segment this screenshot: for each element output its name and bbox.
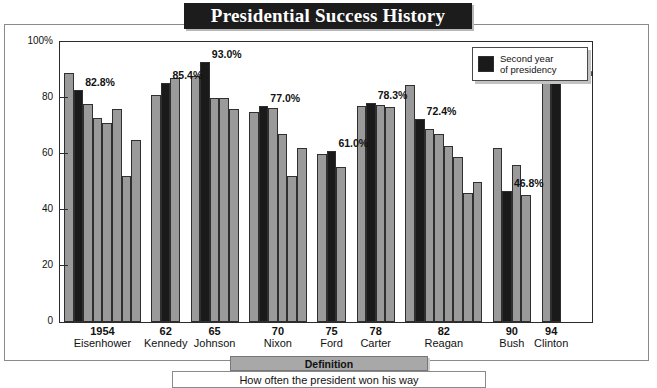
x-axis-labels: 1954Eisenhower62Kennedy65Johnson70Nixon7… — [0, 325, 657, 359]
bar — [268, 108, 278, 322]
bar — [278, 134, 288, 322]
bar-second-year — [259, 106, 269, 322]
y-axis-tick — [59, 209, 68, 210]
bar — [229, 109, 239, 322]
bar-value-label: 82.8% — [85, 76, 115, 88]
bar — [102, 123, 112, 322]
legend-label-line2: of presidency — [500, 64, 557, 75]
bar-second-year — [74, 90, 84, 322]
bar — [287, 176, 297, 322]
bar — [473, 182, 483, 322]
bar — [219, 98, 229, 322]
bar — [297, 148, 307, 322]
bar — [336, 167, 346, 322]
x-axis-president: Clinton — [520, 337, 583, 350]
y-axis-tick — [59, 153, 68, 154]
bar — [463, 193, 473, 322]
bars-layer: 82.8%85.4%93.0%77.0%61.0%78.3%72.4%46.8%… — [60, 42, 592, 322]
bar-value-label: 61.0% — [338, 137, 368, 149]
y-axis-tick — [59, 97, 68, 98]
bar — [249, 112, 259, 322]
bar-group — [542, 42, 561, 322]
legend-label: Second year of presidency — [500, 53, 557, 75]
bar-group — [317, 42, 346, 322]
bar-group — [405, 42, 482, 322]
bar-value-label: 78.3% — [378, 89, 408, 101]
bar-value-label: 93.0% — [212, 48, 242, 60]
bar — [425, 129, 435, 322]
bar — [112, 109, 122, 322]
bar — [521, 195, 531, 322]
chart-title-banner: Presidential Success History — [184, 3, 472, 29]
bar — [210, 98, 220, 322]
bar — [151, 95, 161, 322]
bar-second-year — [502, 191, 512, 322]
bar — [405, 85, 415, 322]
bar — [131, 140, 141, 322]
y-axis-tick-label: 60 — [42, 148, 53, 158]
bar-second-year — [161, 83, 171, 322]
bar-second-year — [366, 103, 376, 322]
bar-second-year — [551, 80, 561, 322]
definition-callout: Definition How often the president won h… — [230, 356, 428, 387]
bar — [434, 134, 444, 322]
bar — [453, 157, 463, 322]
page-title: Presidential Success History — [211, 5, 445, 27]
legend-label-line1: Second year — [500, 53, 553, 64]
dark-square-swatch — [478, 56, 494, 72]
bar-value-label: 72.4% — [427, 105, 457, 117]
bar-group — [249, 42, 307, 322]
bar — [385, 107, 395, 322]
bar-value-label: 85.4% — [173, 69, 203, 81]
definition-body-text: How often the president won his way — [239, 374, 418, 386]
bar-group — [151, 42, 180, 322]
x-axis-year: 94 — [520, 325, 583, 337]
bar — [83, 104, 93, 322]
y-axis: 100%806040200 — [0, 36, 59, 326]
bar — [170, 78, 180, 322]
chart-legend: Second year of presidency — [472, 47, 588, 81]
y-axis-tick-label: 40 — [42, 204, 53, 214]
y-axis-tick — [59, 265, 68, 266]
bar-second-year — [415, 119, 425, 322]
bar — [191, 76, 201, 322]
y-axis-ticks — [59, 41, 71, 323]
bar-value-label: 46.8% — [514, 177, 544, 189]
definition-tab-label: Definition — [305, 358, 353, 370]
bar-second-year — [327, 151, 337, 322]
x-axis-category: 94Clinton — [520, 325, 583, 350]
bar — [93, 118, 103, 322]
definition-body: How often the president won his way — [172, 371, 486, 388]
y-axis-tick-label: 80 — [42, 92, 53, 102]
bar-value-label: 77.0% — [270, 92, 300, 104]
bar-group — [357, 42, 395, 322]
bar — [542, 81, 552, 322]
definition-tab: Definition — [230, 356, 428, 371]
bar — [493, 148, 503, 322]
y-axis-tick-label: 20 — [42, 260, 53, 270]
bar-group — [191, 42, 239, 322]
bar-second-year — [200, 62, 210, 322]
bar — [376, 105, 386, 322]
bar — [444, 146, 454, 322]
y-axis-tick-label: 100% — [27, 36, 53, 46]
bar — [122, 176, 132, 322]
bar — [317, 154, 327, 322]
